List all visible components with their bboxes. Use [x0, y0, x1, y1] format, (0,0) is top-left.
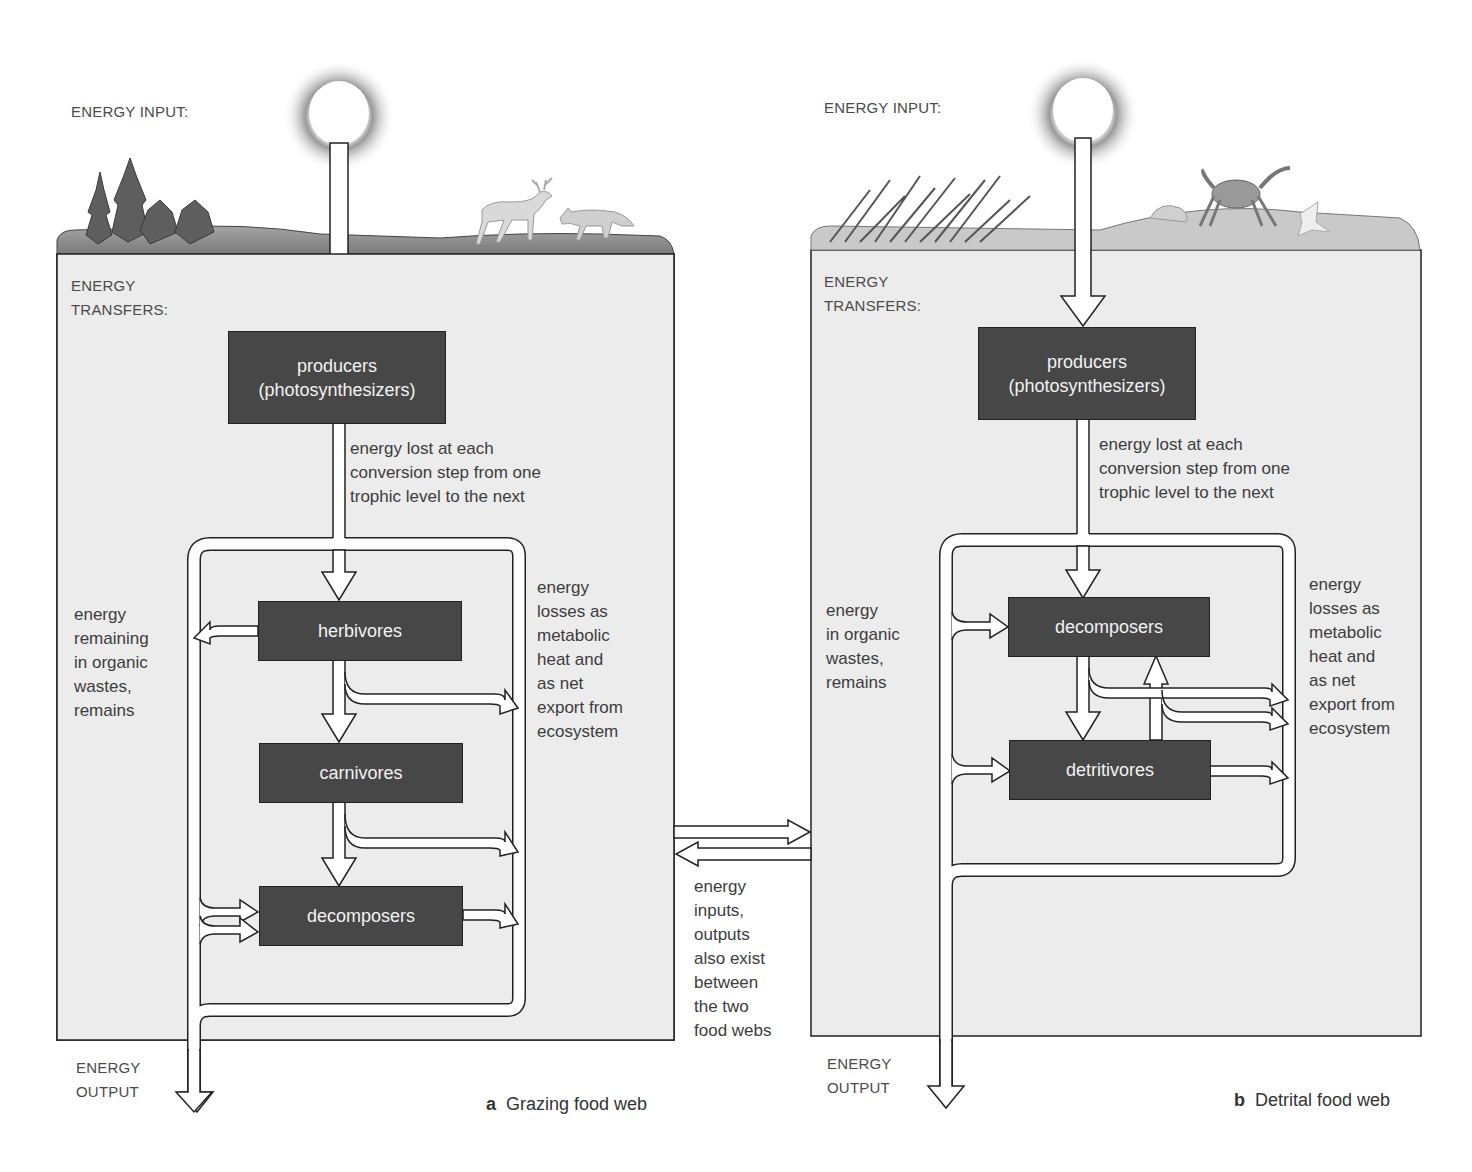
- conifer-trees-illustration: [86, 158, 214, 244]
- caption-letter-a: a: [486, 1094, 496, 1114]
- decomposers-box-a: decomposers: [259, 886, 463, 946]
- decomposers-box-b: decomposers: [1008, 597, 1210, 657]
- caption-a: aGrazing food web: [486, 1094, 647, 1115]
- caption-text-b: Detrital food web: [1255, 1090, 1390, 1110]
- caption-letter-b: b: [1234, 1090, 1245, 1110]
- energy-output-label-b: ENERGY OUTPUT: [827, 1052, 892, 1100]
- between-webs-note: energy inputs, outputs also exist betwee…: [694, 875, 772, 1043]
- producers-box-b: producers (photosynthesizers): [978, 327, 1196, 420]
- organic-wastes-note-a: energy remaining in organic wastes, rema…: [74, 603, 149, 723]
- energy-output-label-a: ENERGY OUTPUT: [76, 1056, 141, 1104]
- between-webs-arrows: [674, 820, 811, 866]
- organic-wastes-note-b: energy in organic wastes, remains: [826, 599, 900, 695]
- energy-input-label-b: ENERGY INPUT:: [824, 96, 941, 120]
- metabolic-losses-note-b: energy losses as metabolic heat and as n…: [1309, 573, 1395, 741]
- metabolic-losses-note-a: energy losses as metabolic heat and as n…: [537, 576, 623, 744]
- carnivores-box: carnivores: [259, 743, 463, 803]
- energy-transfers-label-a: ENERGY TRANSFERS:: [71, 274, 168, 322]
- energy-transfers-label-b: ENERGY TRANSFERS:: [824, 270, 921, 318]
- energy-loss-note-b: energy lost at each conversion step from…: [1099, 433, 1290, 505]
- energy-input-label-a: ENERGY INPUT:: [71, 100, 188, 124]
- detritivores-box: detritivores: [1009, 740, 1211, 800]
- producers-box-a: producers (photosynthesizers): [228, 331, 446, 424]
- caption-b: bDetrital food web: [1234, 1090, 1390, 1111]
- herbivores-box: herbivores: [258, 601, 462, 661]
- caption-text-a: Grazing food web: [506, 1094, 647, 1114]
- energy-loss-note-a: energy lost at each conversion step from…: [350, 437, 541, 509]
